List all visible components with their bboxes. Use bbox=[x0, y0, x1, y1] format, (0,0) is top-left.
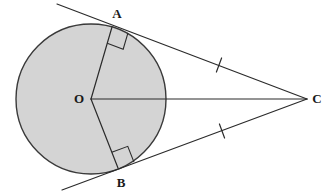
point-label-B: B bbox=[117, 175, 126, 190]
geometry-figure: O A B C bbox=[0, 0, 336, 193]
point-label-O: O bbox=[74, 91, 84, 106]
geometry-canvas: O A B C bbox=[0, 0, 336, 193]
point-label-A: A bbox=[112, 6, 122, 21]
point-label-C: C bbox=[312, 91, 321, 106]
